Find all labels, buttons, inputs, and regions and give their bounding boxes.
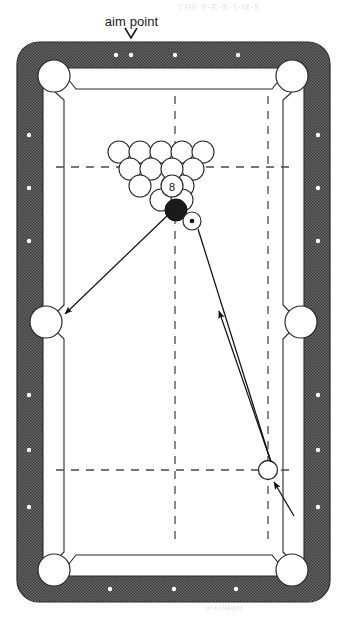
rail-diamond-right-6 — [316, 505, 320, 509]
rail-diamond-top-4 — [236, 53, 240, 57]
bottom-left-pocket — [38, 554, 70, 586]
aim-point-pointer — [125, 28, 137, 38]
rail-diamond-right-4 — [316, 393, 320, 397]
rail-diamond-bottom-2 — [172, 587, 176, 591]
eight-ball: 8 — [161, 175, 183, 197]
rail-diamond-right-3 — [316, 239, 320, 243]
rail-diamond-top-1 — [114, 53, 118, 57]
object-ball-center-dot — [190, 219, 195, 224]
rack-ball-r3-1 — [129, 175, 151, 197]
rail-diamond-right-2 — [316, 186, 320, 190]
rail-diamond-left-1 — [27, 133, 31, 137]
top-right-pocket — [276, 60, 308, 92]
cue-ball — [259, 461, 278, 480]
rail-diamond-left-6 — [27, 505, 31, 509]
bottom-right-pocket — [276, 554, 308, 586]
top-left-pocket — [38, 60, 70, 92]
rail-diamond-left-3 — [27, 239, 31, 243]
rail-diamond-top-aim — [129, 53, 133, 57]
rail-diamond-left-4 — [27, 393, 31, 397]
right-side-pocket — [285, 306, 317, 338]
rail-diamond-left-5 — [27, 448, 31, 452]
pool-table-diagram: THE P-E-R-I-M-E for the shot and o tiny … — [0, 0, 347, 618]
rail-diamond-right-5 — [316, 448, 320, 452]
svg-text:THE P-E-R-I-M-E: THE P-E-R-I-M-E — [178, 2, 261, 12]
left-side-pocket — [30, 306, 62, 338]
rail-diamond-bottom-3 — [234, 587, 238, 591]
rail-diamond-top-3 — [173, 53, 177, 57]
rail-diamond-bottom-1 — [108, 587, 112, 591]
rail-diamond-left-2 — [27, 186, 31, 190]
rail-diamond-right-1 — [316, 133, 320, 137]
object-ball — [183, 212, 201, 230]
eight-ball-label: 8 — [169, 181, 175, 193]
svg-text:at a sharper: at a sharper — [206, 603, 243, 612]
